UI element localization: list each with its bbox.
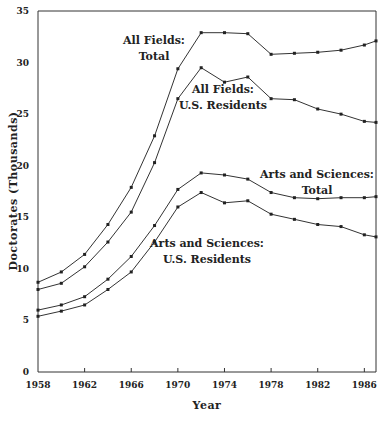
data-point-marker bbox=[83, 253, 86, 256]
series-label: U.S. Residents bbox=[163, 253, 251, 266]
data-point-marker bbox=[270, 53, 273, 56]
data-point-marker bbox=[153, 161, 156, 164]
data-point-marker bbox=[270, 97, 273, 100]
x-tick-label: 1974 bbox=[212, 380, 237, 390]
data-point-marker bbox=[246, 199, 249, 202]
data-point-marker bbox=[223, 31, 226, 34]
data-point-marker bbox=[153, 134, 156, 137]
data-point-marker bbox=[316, 107, 319, 110]
x-tick-label: 1966 bbox=[119, 380, 144, 390]
data-point-marker bbox=[106, 278, 109, 281]
data-point-marker bbox=[130, 211, 133, 214]
x-tick-label: 1978 bbox=[259, 380, 284, 390]
y-tick-label: 5 bbox=[23, 315, 29, 325]
data-point-marker bbox=[106, 241, 109, 244]
data-point-marker bbox=[340, 113, 343, 116]
data-point-marker bbox=[363, 44, 366, 47]
x-tick-label: 1970 bbox=[165, 380, 190, 390]
data-point-marker bbox=[200, 31, 203, 34]
data-point-marker bbox=[375, 235, 378, 238]
data-point-marker bbox=[316, 223, 319, 226]
data-point-marker bbox=[375, 195, 378, 198]
x-axis-title: Year bbox=[192, 399, 222, 412]
data-point-marker bbox=[293, 52, 296, 55]
x-tick-label: 1986 bbox=[352, 380, 377, 390]
x-tick-label: 1962 bbox=[72, 380, 97, 390]
data-point-marker bbox=[375, 121, 378, 124]
data-point-marker bbox=[200, 191, 203, 194]
data-point-marker bbox=[83, 265, 86, 268]
series-label: All Fields: bbox=[191, 83, 254, 96]
y-axis-title: Doctorates (Thousands) bbox=[7, 111, 20, 270]
data-point-marker bbox=[223, 173, 226, 176]
series-label: Arts and Sciences: bbox=[259, 168, 374, 181]
data-point-marker bbox=[363, 196, 366, 199]
data-point-marker bbox=[176, 205, 179, 208]
data-point-marker bbox=[37, 315, 40, 318]
data-point-marker bbox=[37, 288, 40, 291]
data-point-marker bbox=[200, 66, 203, 69]
data-point-marker bbox=[153, 224, 156, 227]
data-point-marker bbox=[223, 201, 226, 204]
series-label: Total bbox=[302, 184, 333, 197]
data-point-marker bbox=[176, 67, 179, 70]
data-point-marker bbox=[316, 51, 319, 54]
data-point-marker bbox=[60, 310, 63, 313]
data-point-marker bbox=[60, 303, 63, 306]
data-point-marker bbox=[293, 196, 296, 199]
data-point-marker bbox=[340, 225, 343, 228]
data-point-marker bbox=[270, 191, 273, 194]
data-point-marker bbox=[83, 303, 86, 306]
series-label: Total bbox=[139, 50, 170, 63]
series-label: Arts and Sciences: bbox=[149, 237, 264, 250]
y-tick-label: 35 bbox=[16, 6, 29, 16]
data-point-marker bbox=[293, 98, 296, 101]
data-point-marker bbox=[60, 282, 63, 285]
data-point-marker bbox=[106, 288, 109, 291]
data-point-marker bbox=[60, 270, 63, 273]
data-point-marker bbox=[316, 197, 319, 200]
y-tick-label: 30 bbox=[16, 58, 29, 68]
y-tick-label: 0 bbox=[23, 367, 29, 377]
data-point-marker bbox=[37, 309, 40, 312]
data-point-marker bbox=[340, 49, 343, 52]
data-point-marker bbox=[293, 218, 296, 221]
x-tick-label: 1958 bbox=[25, 380, 50, 390]
data-point-marker bbox=[130, 255, 133, 258]
x-axis-ticks: 19581962196619701974197819821986 bbox=[25, 368, 376, 390]
x-tick-label: 1982 bbox=[305, 380, 330, 390]
data-point-marker bbox=[83, 295, 86, 298]
series-labels: All Fields:TotalAll Fields:U.S. Resident… bbox=[122, 34, 374, 266]
data-point-marker bbox=[246, 178, 249, 181]
data-point-marker bbox=[106, 223, 109, 226]
data-point-marker bbox=[176, 188, 179, 191]
data-point-marker bbox=[246, 76, 249, 79]
data-point-marker bbox=[130, 270, 133, 273]
line-chart: 05101520253035 1958196219661970197419781… bbox=[0, 0, 386, 421]
data-point-marker bbox=[200, 171, 203, 174]
data-point-marker bbox=[340, 196, 343, 199]
series-label: U.S. Residents bbox=[179, 99, 267, 112]
data-point-marker bbox=[246, 32, 249, 35]
data-point-marker bbox=[363, 120, 366, 123]
data-point-marker bbox=[375, 39, 378, 42]
data-point-marker bbox=[270, 213, 273, 216]
data-point-marker bbox=[37, 281, 40, 284]
data-point-marker bbox=[363, 233, 366, 236]
series-label: All Fields: bbox=[122, 34, 185, 47]
data-point-marker bbox=[130, 186, 133, 189]
